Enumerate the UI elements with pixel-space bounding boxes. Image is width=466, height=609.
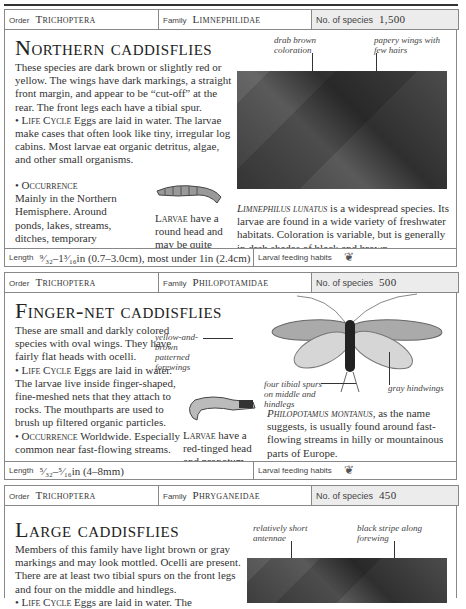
order-cell: Order Trichoptera [5,486,159,505]
leader-line [321,383,356,384]
order-value: Trichoptera [35,13,95,25]
annotation-drab-brown: drab brown coloration [274,35,344,55]
annotation-hindwings: gray hindwings [388,383,458,393]
feeding-habits-cell: Larval feeding habits ❦ [254,249,456,266]
species-count-cell: No. of species 1,500 [312,10,458,29]
family-label: Family [163,279,187,288]
species-count-cell: No. of species 450 [312,486,458,505]
occurrence-label: Occurrence [22,430,78,442]
leader-line [389,352,390,385]
length-value: ⁵⁄₃₂–⁵⁄₁₆in (4–8mm) [39,465,123,477]
species-caption: Limnephilus lunatus is a widespread spec… [237,202,452,255]
family-cell: Family Phryganeidae [159,486,312,505]
family-value: Phryganeidae [193,489,261,501]
annotation-papery-wings: papery wings with few hairs [374,35,449,55]
section-1-footer: Length ⁹⁄₃₂–1³⁄₁₆in (0.7–3.0cm), most un… [4,248,457,267]
bullet-icon: • [15,364,19,376]
leaf-icon: ❦ [344,463,354,478]
section-2-footer: Length ⁵⁄₃₂–⁵⁄₁₆in (4–8mm) Larval feedin… [4,461,457,480]
feeding-habits-label: Larval feeding habits [258,466,332,475]
section-title: Finger-net caddisflies [15,298,222,324]
species-count-cell: No. of species 500 [312,273,458,292]
section-1-header: Order Trichoptera Family Limnephilidae N… [4,9,459,30]
larva-illustration [155,181,225,205]
top-rule [4,4,458,6]
life-cycle-text: Eggs are laid in water. The [74,596,192,608]
species-caption: Philopotamus montanus, as the name sugge… [267,407,447,460]
leaf-icon: ❦ [344,250,354,265]
description: These species are dark brown or slightly… [15,61,235,167]
species-count-label: No. of species [316,15,373,25]
species-photo [247,558,447,603]
family-cell: Family Limnephilidae [159,10,312,29]
leader-line [203,338,233,339]
family-cell: Family Philopotamidae [159,273,312,292]
section-2-body: Finger-net caddisflies These are small a… [4,292,457,461]
section-3-body: Large caddisflies Members of this family… [4,505,457,598]
occurrence: • Occurrence Mainly in the Northern Hemi… [15,179,125,258]
section-1-body: Northern caddisflies These species are d… [4,29,457,248]
order-label: Order [9,279,29,288]
species-name: Philopotamus montanus [267,407,373,419]
bullet-icon: • [15,114,19,126]
order-value: Trichoptera [35,489,95,501]
description-text: These are small and darkly colored speci… [15,324,171,362]
life-cycle-label: Life Cycle [22,596,72,608]
larvae-label: Larvae [183,429,216,441]
description: Members of this family have light brown … [15,543,247,609]
species-count-value: 1,500 [379,13,405,25]
species-count-value: 500 [379,276,396,288]
species-count-label: No. of species [316,278,373,288]
annotation-forewings: yellow-and-brown patterned forewings [155,332,210,372]
species-count-label: No. of species [316,491,373,501]
life-cycle-label: Life Cycle [22,364,72,376]
description-text: These species are dark brown or slightly… [15,61,231,113]
length-value: ⁹⁄₃₂–1³⁄₁₆in (0.7–3.0cm), most under 1in… [39,252,250,264]
annotation-black-stripe: black stripe along forewing [357,523,432,543]
length-label: Length [9,466,33,475]
section-2-header: Order Trichoptera Family Philopotamidae … [4,272,459,293]
feeding-habits-cell: Larval feeding habits ❦ [254,462,456,479]
larva-illustration [183,392,263,422]
family-label: Family [163,492,187,501]
length-cell: Length ⁹⁄₃₂–1³⁄₁₆in (0.7–3.0cm), most un… [5,249,254,266]
order-value: Trichoptera [35,276,95,288]
bullet-icon: • [15,430,19,442]
insect-illustration [267,292,457,392]
larvae-label: Larvae [155,212,188,224]
length-cell: Length ⁵⁄₃₂–⁵⁄₁₆in (4–8mm) [5,462,254,479]
feeding-habits-label: Larval feeding habits [258,253,332,262]
life-cycle-label: Life Cycle [22,114,72,126]
family-value: Limnephilidae [193,13,261,25]
bullet-icon: • [15,179,19,191]
order-cell: Order Trichoptera [5,273,159,292]
annotation-short-antennae: relatively short antennae [253,523,323,543]
annotation-tibial-spurs: four tibial spurs on middle and hindlegs [264,379,329,409]
description-text: Members of this family have light brown … [15,543,241,595]
species-photo [237,71,447,189]
order-cell: Order Trichoptera [5,10,159,29]
species-count-value: 450 [379,489,396,501]
occurrence-label: Occurrence [22,179,78,191]
species-name: Limnephilus lunatus [237,202,327,214]
section-title: Large caddisflies [15,517,179,543]
family-value: Philopotamidae [193,276,269,288]
length-label: Length [9,253,33,262]
bullet-icon: • [15,596,19,608]
order-label: Order [9,492,29,501]
order-label: Order [9,16,29,25]
family-label: Family [163,16,187,25]
section-3-header: Order Trichoptera Family Phryganeidae No… [4,485,459,506]
section-title: Northern caddisflies [15,35,212,61]
